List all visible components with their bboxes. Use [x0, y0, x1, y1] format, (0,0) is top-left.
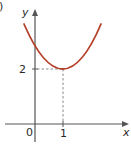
y-tick-label-2: 2: [19, 63, 26, 76]
x-axis-label: x: [122, 126, 130, 139]
y-axis-arrow-icon: [32, 9, 38, 16]
chart-canvas: ) y x 0 1 2: [0, 0, 131, 144]
y-axis-label: y: [21, 6, 29, 19]
origin-label: 0: [26, 126, 33, 139]
corner-fragment: ): [0, 0, 3, 13]
x-tick-label-1: 1: [60, 127, 67, 140]
